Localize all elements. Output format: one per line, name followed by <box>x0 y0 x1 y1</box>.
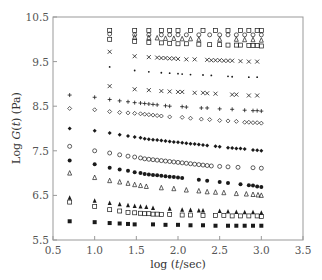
y-axis-label: Log G(t) (Pa) <box>10 92 23 164</box>
y-axis-ticks: 5.56.57.58.59.510.5 <box>26 11 57 246</box>
series-filled-diamond <box>68 127 264 153</box>
x-tick-label: 3.0 <box>253 244 270 256</box>
series-open-square-low <box>68 200 264 218</box>
series-cross-high <box>108 50 260 64</box>
series-open-square-high <box>108 37 264 48</box>
x-tick-label: 2.5 <box>211 244 228 256</box>
x-axis-ticks: 0.51.01.52.02.53.03.5 <box>45 236 312 256</box>
series-filled-square <box>68 219 264 227</box>
y-tick-label: 10.5 <box>26 11 49 23</box>
y-tick-label: 9.5 <box>32 56 49 68</box>
x-tick-label: 3.5 <box>295 244 312 256</box>
y-tick-label: 5.5 <box>32 234 49 246</box>
series-open-square-top <box>108 28 264 32</box>
x-tick-label: 2.0 <box>170 244 187 256</box>
x-axis-label: log (t/sec) <box>150 258 206 271</box>
y-tick-label: 6.5 <box>32 189 49 201</box>
plot-frame <box>53 17 303 240</box>
y-tick-label: 8.5 <box>32 100 49 112</box>
series-dot-mid <box>109 66 258 78</box>
y-tick-label: 7.5 <box>32 145 49 157</box>
x-tick-label: 1.0 <box>86 244 103 256</box>
series-filled-triangle <box>68 195 264 215</box>
series-open-triangle-high <box>133 35 264 43</box>
series-cross-low <box>108 84 260 97</box>
x-tick-label: 1.5 <box>128 244 145 256</box>
chart: 0.51.01.52.02.53.03.5 5.56.57.58.59.510.… <box>0 0 322 280</box>
data-points <box>68 28 264 227</box>
